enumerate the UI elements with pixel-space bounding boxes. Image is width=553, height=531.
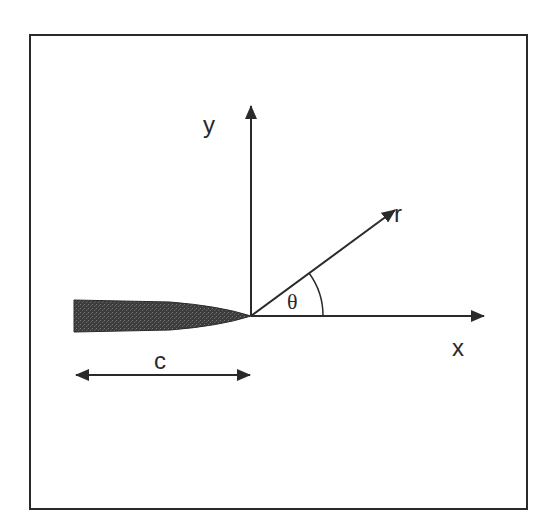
y-axis-label: y	[203, 111, 215, 138]
x-axis-label: x	[452, 334, 464, 361]
theta-arc	[309, 273, 323, 316]
diagram-frame	[30, 35, 527, 509]
r-label: r	[394, 200, 402, 227]
crack-shape	[74, 300, 251, 332]
crack-length-label: c	[154, 347, 166, 374]
r-vector	[251, 210, 395, 316]
crack-tip-coordinate-diagram: y x r θ c	[0, 0, 553, 531]
theta-label: θ	[287, 289, 298, 314]
